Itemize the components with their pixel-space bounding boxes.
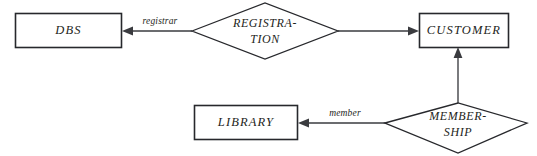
arrowhead-to-customer-horizontal xyxy=(408,27,419,36)
role-label-registrar: registrar xyxy=(143,16,178,26)
relationship-registration-label-line2: TION xyxy=(250,32,280,46)
er-diagram-svg: DBS CUSTOMER LIBRARY REGISTRA- TION MEMB… xyxy=(0,0,537,156)
arrowhead-to-dbs xyxy=(122,27,133,36)
arrowhead-to-customer-vertical xyxy=(454,47,463,58)
entity-library-label: LIBRARY xyxy=(217,115,275,129)
relationship-membership[interactable]: MEMBER- SHIP xyxy=(385,103,527,153)
relationship-membership-label-line1: MEMBER- xyxy=(428,109,487,123)
connector-registration-to-dbs xyxy=(122,27,192,36)
entity-customer-label: CUSTOMER xyxy=(427,23,501,37)
entity-library[interactable]: LIBRARY xyxy=(195,106,298,140)
connector-membership-to-customer xyxy=(454,47,463,103)
relationship-registration-label-line1: REGISTRA- xyxy=(232,16,297,30)
role-label-member: member xyxy=(329,108,361,118)
entity-dbs-label: DBS xyxy=(54,23,81,37)
relationship-registration[interactable]: REGISTRA- TION xyxy=(192,3,338,59)
connector-registration-to-customer xyxy=(338,27,419,36)
er-diagram-canvas: DBS CUSTOMER LIBRARY REGISTRA- TION MEMB… xyxy=(0,0,537,156)
connector-membership-to-library xyxy=(298,119,385,128)
entity-customer[interactable]: CUSTOMER xyxy=(420,14,509,48)
arrowhead-to-library xyxy=(298,119,309,128)
relationship-membership-label-line2: SHIP xyxy=(444,125,472,139)
entity-dbs[interactable]: DBS xyxy=(16,14,122,48)
